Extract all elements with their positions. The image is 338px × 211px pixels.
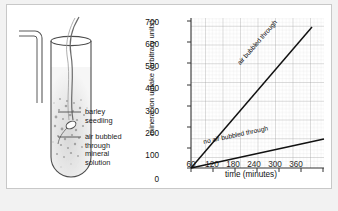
- air-inlet-tube-inner: [19, 36, 37, 103]
- figure-container: barley seedling air bubbled through mine…: [0, 0, 338, 211]
- line-chart: mineral ion uptake (arbitrary units) tim…: [135, 7, 335, 189]
- plot-area: [135, 7, 335, 189]
- callout-label-air-bubbled: air bubbled through mineral solution: [85, 133, 122, 167]
- figure-panel: barley seedling air bubbled through mine…: [6, 4, 332, 189]
- apparatus-diagram: barley seedling air bubbled through mine…: [11, 7, 141, 189]
- callout-label-barley-seedling: barley seedling: [85, 108, 113, 125]
- x-axis-ticks: [191, 168, 323, 172]
- y-axis-ticks: [187, 21, 191, 168]
- air-inlet-tube-outer: [19, 31, 42, 103]
